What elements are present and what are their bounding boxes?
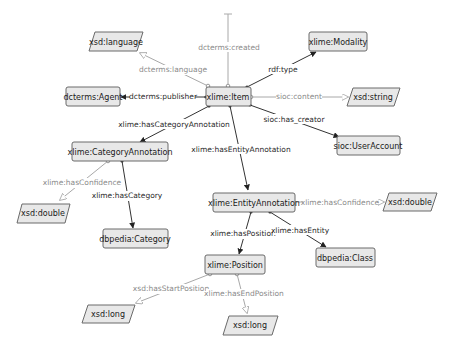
node-xlime-entityannotation[interactable]: xlime:EntityAnnotation — [208, 193, 300, 212]
svg-text:xlime:hasCategory: xlime:hasCategory — [92, 191, 163, 200]
svg-text:xlime:Item: xlime:Item — [207, 93, 250, 102]
svg-text:xsd:hasStartPosition: xsd:hasStartPosition — [133, 284, 210, 293]
node-dbpedia-category[interactable]: dbpedia:Category — [99, 229, 171, 248]
svg-text:dbpedia:Category: dbpedia:Category — [99, 235, 171, 244]
edge-has-category-annotation: xlime:hasCategoryAnnotation — [118, 104, 230, 142]
svg-text:xsd:double: xsd:double — [21, 209, 65, 218]
edge-entity-has-confidence: xlime:hasConfidence — [296, 197, 384, 207]
svg-text:dbpedia:Class: dbpedia:Class — [317, 254, 373, 263]
node-xsd-long-end[interactable]: xsd:long — [223, 316, 278, 335]
svg-text:sioc:UserAccount: sioc:UserAccount — [334, 142, 403, 151]
node-xsd-string[interactable]: xsd:string — [347, 88, 400, 106]
node-xsd-double-entity[interactable]: xsd:double — [383, 193, 437, 211]
node-xlime-position[interactable]: xlime:Position — [205, 255, 265, 274]
edge-has-end-position: xlime:hasEndPosition — [204, 272, 284, 313]
node-xsd-long-start[interactable]: xsd:long — [82, 305, 135, 323]
svg-text:rdf:type: rdf:type — [268, 65, 298, 74]
svg-text:sioc:content: sioc:content — [276, 92, 322, 101]
node-sioc-useraccount[interactable]: sioc:UserAccount — [334, 136, 403, 155]
edge-label-dcterms-created: dcterms:created — [198, 43, 260, 52]
edge-dcterms-publisher: dcterms:publisher — [121, 92, 208, 102]
svg-text:xlime:hasPosition: xlime:hasPosition — [210, 229, 276, 238]
svg-text:xsd:double: xsd:double — [388, 198, 432, 207]
node-dcterms-agent[interactable]: dcterms:Agent — [63, 87, 122, 106]
svg-text:dcterms:Agent: dcterms:Agent — [63, 93, 122, 102]
svg-text:xlime:hasConfidence: xlime:hasConfidence — [43, 178, 122, 187]
svg-text:dcterms:language: dcterms:language — [139, 65, 207, 74]
svg-text:xlime:CategoryAnnotation: xlime:CategoryAnnotation — [67, 148, 172, 157]
svg-text:xsd:long: xsd:long — [233, 321, 267, 330]
svg-text:xsd:long: xsd:long — [91, 310, 125, 319]
ontology-diagram: dcterms:created dcterms:language dcterms… — [0, 0, 454, 350]
node-xlime-item[interactable]: xlime:Item — [206, 87, 251, 106]
svg-text:xlime:hasEntity: xlime:hasEntity — [271, 226, 330, 235]
edge-sioc-content: sioc:content — [249, 92, 348, 102]
edge-sioc-has-creator: sioc:has_creator — [248, 103, 339, 137]
svg-text:xlime:EntityAnnotation: xlime:EntityAnnotation — [208, 199, 300, 208]
edge-rdf-type: rdf:type — [245, 52, 316, 89]
node-xsd-double-category[interactable]: xsd:double — [17, 204, 70, 223]
edge-has-category: xlime:hasCategory — [92, 159, 163, 228]
edge-has-start-position: xsd:hasStartPosition — [133, 272, 212, 303]
svg-text:xlime:Position: xlime:Position — [207, 261, 263, 270]
svg-text:xsd:language: xsd:language — [89, 38, 143, 47]
svg-text:xlime:hasEndPosition: xlime:hasEndPosition — [204, 289, 284, 298]
node-xsd-language[interactable]: xsd:language — [89, 32, 143, 51]
svg-text:xlime:hasConfidence: xlime:hasConfidence — [301, 198, 380, 207]
svg-text:xlime:hasEntityAnnotation: xlime:hasEntityAnnotation — [191, 145, 291, 154]
node-xlime-categoryannotation[interactable]: xlime:CategoryAnnotation — [67, 142, 172, 161]
edge-dcterms-language: dcterms:language — [139, 53, 210, 88]
svg-text:xlime:hasCategoryAnnotation: xlime:hasCategoryAnnotation — [118, 120, 230, 129]
svg-text:xlime:Modality: xlime:Modality — [309, 38, 368, 47]
node-dbpedia-class[interactable]: dbpedia:Class — [316, 248, 375, 267]
svg-text:xsd:string: xsd:string — [353, 93, 393, 102]
edge-has-entity: xlime:hasEntity — [268, 210, 329, 247]
edge-has-position: xlime:hasPosition — [210, 210, 276, 254]
svg-text:dcterms:publisher: dcterms:publisher — [129, 92, 198, 101]
edge-dcterms-created: dcterms:created — [190, 14, 268, 88]
svg-text:sioc:has_creator: sioc:has_creator — [263, 115, 325, 124]
node-xlime-modality[interactable]: xlime:Modality — [309, 32, 368, 51]
